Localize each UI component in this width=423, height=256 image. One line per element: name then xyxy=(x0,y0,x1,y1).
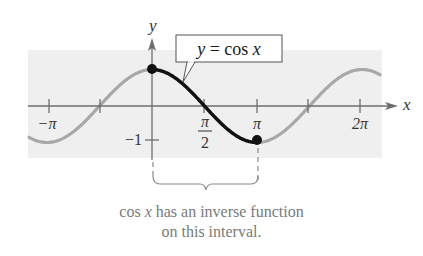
caption-prefix: cos xyxy=(119,203,144,220)
y-axis-label: y xyxy=(147,16,157,35)
tick-label-neg-one: −1 xyxy=(125,131,142,148)
tick-label-half-pi-num: π xyxy=(201,113,210,130)
caption-variable: x xyxy=(145,203,152,220)
caption-suffix: has an inverse function xyxy=(152,203,304,220)
tick-label-half-pi-den: 2 xyxy=(201,134,209,151)
interval-brace xyxy=(153,176,258,190)
x-axis-label: x xyxy=(402,95,411,114)
caption-line-2: on this interval. xyxy=(0,222,423,241)
tick-label-two-pi: 2π xyxy=(352,115,369,132)
tick-label-pi: π xyxy=(253,115,262,132)
endpoint-dot-start xyxy=(147,64,157,74)
tick-label-neg-pi: −π xyxy=(38,115,58,132)
endpoint-dot-end xyxy=(252,135,262,145)
function-label: y = cos x xyxy=(195,39,261,59)
caption-line-1: cos x has an inverse function xyxy=(0,202,423,221)
cosine-graph: y = cos x y x −π π 2 π 2π −1 xyxy=(0,0,423,200)
